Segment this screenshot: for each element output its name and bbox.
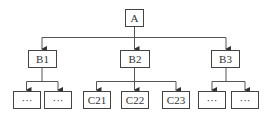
node-b3-child-2: ··· — [231, 91, 259, 109]
node-b3-child-1: ··· — [198, 91, 226, 109]
node-b1: B1 — [28, 50, 57, 68]
node-b2: B2 — [120, 50, 150, 68]
tree-diagram: A B1 B2 B3 ··· ··· C21 C22 C23 ··· ··· — [0, 0, 266, 122]
node-b3: B3 — [211, 50, 240, 68]
node-b1-child-2: ··· — [44, 91, 72, 109]
node-b1-child-1: ··· — [13, 91, 41, 109]
node-c23: C23 — [162, 91, 190, 109]
node-c21: C21 — [83, 91, 111, 109]
node-c22: C22 — [121, 91, 149, 109]
node-a: A — [125, 9, 144, 27]
